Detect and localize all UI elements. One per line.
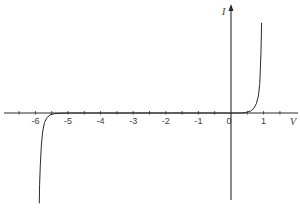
x-tick-label: -2 — [162, 116, 170, 126]
y-axis-arrow-icon — [229, 4, 234, 11]
forward-bias-curve — [231, 23, 262, 113]
data-curves — [39, 23, 261, 204]
x-tick-label: -4 — [97, 116, 105, 126]
x-tick-label: -1 — [194, 116, 202, 126]
y-axis — [229, 4, 234, 200]
x-axis-tick-labels: -6-5-4-3-2-101 — [31, 116, 266, 126]
x-tick-label: 0 — [226, 116, 231, 126]
x-tick-label: 1 — [261, 116, 266, 126]
x-tick-label: -5 — [64, 116, 72, 126]
y-axis-label: I — [221, 6, 226, 17]
x-tick-label: -3 — [129, 116, 137, 126]
reverse-breakdown-curve — [39, 113, 231, 203]
x-tick-label: -6 — [31, 116, 39, 126]
x-axis-label: V — [290, 116, 298, 127]
iv-characteristic-chart: -6-5-4-3-2-101 V I — [0, 0, 300, 214]
